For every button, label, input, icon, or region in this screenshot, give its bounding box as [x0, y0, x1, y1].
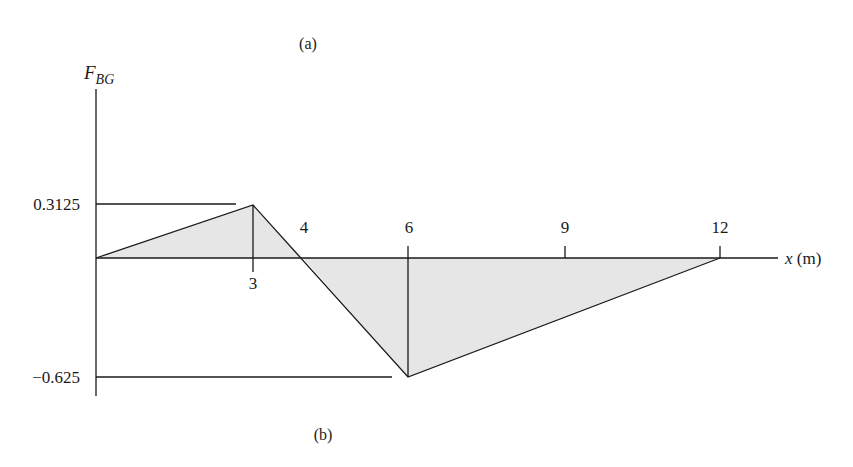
- y-axis-label: FBG: [83, 62, 114, 87]
- y-label-subscript: BG: [96, 72, 115, 87]
- x-tick-6: 6: [405, 218, 414, 237]
- caption-b: (b): [314, 426, 333, 444]
- y-label-main: F: [83, 62, 96, 83]
- caption-a: (a): [299, 35, 317, 53]
- x-axis-label: x (m): [784, 249, 821, 268]
- x-tick-12: 12: [712, 218, 729, 237]
- y-tick-min: −0.625: [32, 368, 80, 387]
- influence-line-diagram: FBG 0.3125 −0.625 3 4 6 9 12 x (m) (a) (…: [0, 0, 853, 467]
- y-tick-max: 0.3125: [33, 195, 80, 214]
- negative-region: [303, 258, 720, 377]
- x-tick-9: 9: [561, 218, 570, 237]
- x-tick-3: 3: [249, 274, 258, 293]
- x-tick-4: 4: [300, 218, 309, 237]
- positive-region: [96, 205, 303, 258]
